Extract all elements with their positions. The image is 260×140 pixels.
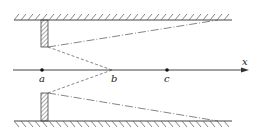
arrow-right-icon: [241, 68, 249, 73]
ray-bottom-to-b: [48, 70, 112, 93]
axis-label-x: x: [242, 57, 248, 67]
point-a: [40, 68, 44, 72]
point-c: [165, 68, 169, 72]
point-label-a: a: [39, 74, 45, 84]
top-wall: [14, 14, 232, 20]
ray-top-to-wall: [48, 20, 218, 47]
ray-top-to-b: [48, 47, 112, 70]
top-block: [41, 20, 48, 47]
point-label-c: c: [164, 74, 170, 84]
bottom-wall: [14, 121, 232, 127]
bottom-block: [41, 93, 48, 121]
diagram-canvas: [0, 0, 260, 140]
ray-bottom-to-wall: [48, 93, 218, 121]
point-label-b: b: [111, 74, 117, 84]
x-axis: [13, 68, 249, 73]
